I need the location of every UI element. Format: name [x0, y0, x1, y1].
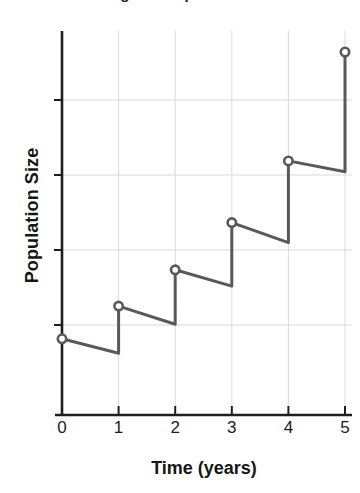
x-axis-title: Time (years) — [62, 458, 346, 479]
x-tick-label: 3 — [217, 418, 247, 438]
x-tick-label: 2 — [160, 418, 190, 438]
data-point-marker — [114, 302, 122, 310]
x-tick-label: 5 — [330, 418, 360, 438]
data-point-marker — [58, 335, 66, 343]
gridlines — [62, 31, 352, 415]
data-series-line — [62, 52, 345, 353]
data-point-markers — [58, 48, 349, 343]
axis-ticks — [54, 100, 345, 415]
data-point-marker — [284, 157, 292, 165]
x-tick-label: 1 — [104, 418, 134, 438]
chart-figure: Logistic Population Growth Population Si… — [0, 0, 360, 493]
x-tick-label: 4 — [273, 418, 303, 438]
x-tick-label: 0 — [47, 418, 77, 438]
data-point-marker — [228, 218, 236, 226]
data-point-marker — [171, 266, 179, 274]
data-point-marker — [341, 48, 349, 56]
